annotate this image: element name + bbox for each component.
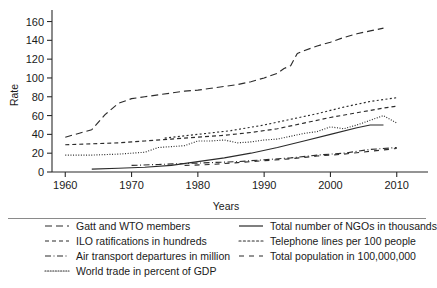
series-line: [65, 106, 396, 145]
x-axis-title: Years: [213, 200, 239, 212]
legend-line-swatch: [44, 266, 70, 276]
y-axis-title: Rate: [8, 84, 20, 106]
x-tick-label: 1980: [186, 179, 210, 191]
y-tick-label: 0: [38, 166, 44, 178]
legend-line-swatch: [238, 221, 264, 231]
legend-item[interactable]: ILO ratifications in hundreds: [44, 233, 230, 248]
legend-line-swatch: [238, 236, 264, 246]
legend-column-right: Total number of NGOs in thousandsTelepho…: [238, 218, 437, 263]
legend-item-label: Total population in 100,000,000: [270, 250, 416, 262]
y-tick-label: 60: [32, 110, 44, 122]
x-tick-label: 1990: [252, 179, 276, 191]
data-series-group: [65, 28, 396, 169]
series-line: [165, 98, 397, 138]
y-tick-label: 140: [26, 34, 44, 46]
x-tick-label: 1970: [119, 179, 143, 191]
y-tick-label: 100: [26, 72, 44, 84]
legend-item[interactable]: Total number of NGOs in thousands: [238, 218, 437, 233]
legend-line-swatch: [44, 236, 70, 246]
legend-line-swatch: [44, 251, 70, 261]
legend-item-label: Air transport departures in million: [76, 250, 230, 262]
legend-line-swatch: [44, 221, 70, 231]
x-tick-label: 1960: [53, 179, 77, 191]
y-tick-label: 80: [32, 91, 44, 103]
legend-column-left: Gatt and WTO membersILO ratifications in…: [44, 218, 230, 278]
chart-legend: Gatt and WTO membersILO ratifications in…: [0, 218, 434, 288]
legend-item-label: Telephone lines per 100 people: [270, 235, 416, 247]
legend-item-label: World trade in percent of GDP: [76, 265, 216, 277]
legend-item[interactable]: Air transport departures in million: [44, 248, 230, 263]
y-tick-label: 20: [32, 147, 44, 159]
legend-item[interactable]: Telephone lines per 100 people: [238, 233, 437, 248]
x-tick-label: 2010: [384, 179, 408, 191]
series-line: [65, 28, 383, 137]
legend-item[interactable]: Total population in 100,000,000: [238, 248, 437, 263]
series-line: [65, 116, 396, 156]
y-tick-label: 40: [32, 128, 44, 140]
x-axis-ticks: 196019701980199020002010: [53, 172, 409, 191]
legend-item-label: Total number of NGOs in thousands: [270, 220, 437, 232]
legend-item-label: Gatt and WTO members: [76, 220, 190, 232]
y-axis-ticks: 020406080100120140160: [26, 16, 52, 178]
y-tick-label: 160: [26, 16, 44, 28]
x-tick-label: 2000: [318, 179, 342, 191]
legend-line-swatch: [238, 251, 264, 261]
legend-item[interactable]: World trade in percent of GDP: [44, 263, 230, 278]
legend-item[interactable]: Gatt and WTO members: [44, 218, 230, 233]
legend-item-label: ILO ratifications in hundreds: [76, 235, 207, 247]
y-tick-label: 120: [26, 53, 44, 65]
